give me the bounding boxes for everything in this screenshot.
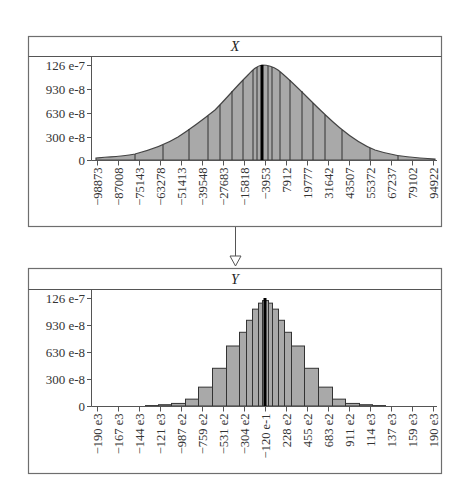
chart-canvas: X	[0, 0, 465, 497]
xtick-label: −27683	[217, 168, 231, 206]
y-ytick-label: 126 e-7	[46, 291, 86, 306]
xtick-label: −190 e3	[91, 414, 105, 455]
xtick-label: −167 e3	[112, 414, 126, 455]
xtick-label: −51413	[175, 168, 189, 206]
xtick-label: 7912	[280, 168, 294, 193]
x-ytick-label: 930 e-8	[46, 82, 85, 97]
histogram-bar	[247, 320, 253, 406]
x-ytick-label: 630 e-8	[46, 106, 85, 121]
histogram-bar	[159, 405, 172, 406]
histogram-bar	[273, 309, 279, 406]
histogram-bar	[240, 332, 247, 406]
histogram-bar	[292, 346, 305, 406]
xtick-label: 114 e3	[364, 414, 378, 447]
xtick-label: −120 e-1	[259, 414, 273, 459]
xtick-label: −531 e2	[217, 414, 231, 455]
histogram-bar	[259, 303, 263, 406]
histogram-bar	[227, 346, 240, 406]
histogram-bar	[269, 303, 273, 406]
y-ytick-label: 0	[79, 399, 86, 414]
histogram-bar	[172, 403, 186, 406]
xtick-label: 137 e3	[385, 414, 399, 448]
xtick-label: −3953	[259, 168, 273, 200]
xtick-label: −87008	[112, 168, 126, 206]
xtick-label: 55372	[364, 168, 378, 199]
panel-x: X	[29, 37, 442, 227]
x-ytick-label: 126 e-7	[46, 58, 86, 73]
x-ytick-label: 0	[79, 153, 86, 168]
xtick-label: 94922	[427, 168, 441, 199]
xtick-label: 911 e2	[343, 414, 357, 447]
histogram-bar	[333, 399, 346, 406]
xtick-label: 43507	[343, 168, 357, 199]
xtick-label: 67237	[385, 168, 399, 199]
xtick-label: −75143	[133, 168, 147, 206]
histogram-bar	[199, 387, 213, 406]
xtick-label: −304 e2	[238, 414, 252, 455]
xtick-label: −98873	[91, 168, 105, 206]
histogram-bar	[213, 368, 227, 406]
histogram-bar	[186, 399, 199, 406]
histogram-bar	[360, 405, 373, 406]
xtick-label: −15818	[238, 168, 252, 206]
histogram-bar	[346, 403, 360, 406]
xtick-label: 159 e3	[406, 414, 420, 448]
xtick-label: −144 e3	[133, 414, 147, 455]
y-ytick-label: 630 e-8	[46, 345, 85, 360]
xtick-label: 455 e2	[301, 414, 315, 448]
xtick-label: −987 e2	[175, 414, 189, 455]
xtick-label: 228 e2	[280, 414, 294, 448]
xtick-label: 79102	[406, 168, 420, 199]
xtick-label: 683 e2	[322, 414, 336, 448]
down-arrow-connector	[230, 227, 241, 266]
xtick-label: −63278	[154, 168, 168, 206]
xtick-label: 19777	[301, 168, 315, 199]
panel-y: Y 126 e-7 930 e-8 630 e-8 300 e-8 0 −190…	[29, 269, 442, 474]
panel-x-title: X	[230, 39, 240, 54]
histogram-bar	[253, 309, 259, 406]
xtick-label: 31642	[322, 168, 336, 199]
histogram-bar	[285, 332, 292, 406]
xtick-label: −759 e2	[196, 414, 210, 455]
histogram-bar	[305, 368, 319, 406]
y-ytick-label: 300 e-8	[46, 372, 85, 387]
arrow-head-icon	[230, 256, 241, 266]
histogram-bar	[279, 320, 285, 406]
xtick-label: −39548	[196, 168, 210, 206]
histogram-bar	[319, 387, 333, 406]
xtick-label: −121 e3	[154, 414, 168, 455]
xtick-label: 190 e3	[427, 414, 441, 448]
y-ytick-label: 930 e-8	[46, 318, 85, 333]
x-ytick-label: 300 e-8	[46, 130, 85, 145]
